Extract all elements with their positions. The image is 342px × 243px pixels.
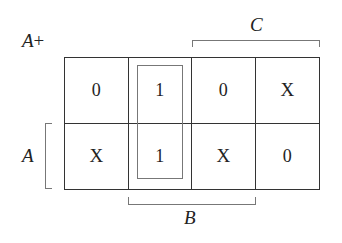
cell-r1-c4: X (256, 58, 320, 124)
cell-r1-c1: 0 (65, 58, 129, 124)
cell-r2-c1: X (65, 124, 129, 190)
title-variable: A (22, 30, 34, 51)
cell-r2-c3: X (192, 124, 256, 190)
karnaugh-grid: 0 1 0 X X 1 X 0 (64, 57, 320, 190)
variable-label-b: B (184, 207, 196, 229)
variable-label-a: A (22, 145, 34, 167)
map-title: A+ (22, 30, 44, 52)
grouping-rectangle (137, 65, 183, 179)
bracket-c (192, 40, 320, 47)
variable-label-c: C (250, 14, 263, 36)
title-suffix: + (34, 30, 45, 51)
bracket-b (128, 197, 256, 205)
cell-r2-c4: 0 (256, 124, 320, 190)
bracket-a (45, 123, 52, 189)
cell-r1-c3: 0 (192, 58, 256, 124)
